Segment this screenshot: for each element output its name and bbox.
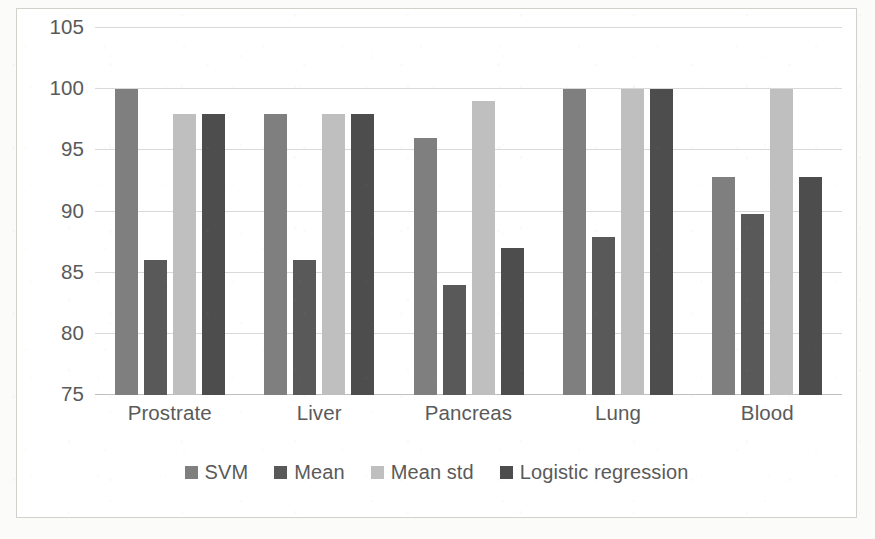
bar-series-layer (95, 28, 842, 395)
y-axis-tick-label: 80 (61, 321, 84, 345)
x-axis-labels: ProstrateLiverPancreasLungBlood (95, 401, 842, 425)
x-axis-label-liver: Liver (244, 401, 393, 425)
bar (770, 89, 793, 395)
y-axis-tick-label: 105 (49, 15, 84, 39)
x-axis-label-blood: Blood (693, 401, 842, 425)
bar (501, 248, 524, 395)
bar (264, 114, 287, 395)
bar (202, 114, 225, 395)
legend-item-mean[interactable]: Mean (274, 461, 344, 484)
bar (621, 89, 644, 395)
legend-swatch-icon (500, 466, 513, 479)
y-axis-tick-label: 90 (61, 199, 84, 223)
x-axis-label-prostrate: Prostrate (95, 401, 244, 425)
bar-group-prostrate (95, 28, 244, 395)
legend-label: Logistic regression (520, 461, 689, 484)
y-axis-tick-label: 75 (61, 382, 84, 406)
bar-group-liver (244, 28, 393, 395)
bar-group-pancreas (394, 28, 543, 395)
legend-label: Mean (294, 461, 344, 484)
y-axis-tick-label: 100 (49, 76, 84, 100)
chart-frame: 1051009590858075 ProstrateLiverPancreasL… (16, 8, 857, 518)
bar (563, 89, 586, 395)
bar (592, 237, 615, 395)
bar (293, 260, 316, 395)
bar (115, 89, 138, 395)
bar (799, 177, 822, 395)
bar-group-lung (543, 28, 692, 395)
bar (650, 89, 673, 395)
y-axis-tick-label: 95 (61, 137, 84, 161)
legend-swatch-icon (371, 466, 384, 479)
legend-item-svm[interactable]: SVM (185, 461, 249, 484)
chart-legend: SVMMeanMean stdLogistic regression (17, 461, 856, 484)
x-axis-label-pancreas: Pancreas (394, 401, 543, 425)
bar (173, 114, 196, 395)
legend-item-mean-std[interactable]: Mean std (371, 461, 474, 484)
legend-swatch-icon (274, 466, 287, 479)
x-axis-label-lung: Lung (543, 401, 692, 425)
bar (472, 101, 495, 395)
legend-label: Mean std (391, 461, 474, 484)
y-axis-tick-label: 85 (61, 260, 84, 284)
legend-item-logistic-regression[interactable]: Logistic regression (500, 461, 689, 484)
bar (322, 114, 345, 395)
bar (144, 260, 167, 395)
plot-area: 1051009590858075 (95, 28, 842, 395)
bar (351, 114, 374, 395)
legend-swatch-icon (185, 466, 198, 479)
bar-group-blood (693, 28, 842, 395)
bar (741, 214, 764, 395)
legend-label: SVM (205, 461, 249, 484)
scanned-page-background: 1051009590858075 ProstrateLiverPancreasL… (0, 0, 875, 539)
bar (414, 138, 437, 395)
bar (712, 177, 735, 395)
bar (443, 285, 466, 395)
